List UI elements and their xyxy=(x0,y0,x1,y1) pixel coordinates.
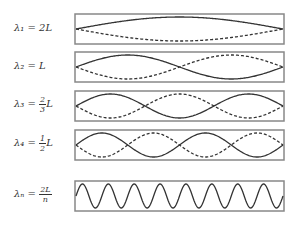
wave-panel-2 xyxy=(74,51,285,83)
label-prefix: λ₄ = xyxy=(14,137,39,148)
wave-panel-1 xyxy=(74,13,285,45)
mode-label-n: λₙ = 2Ln xyxy=(14,185,52,204)
label-suffix: L xyxy=(46,98,53,109)
label-value: 2L xyxy=(39,22,52,33)
fraction: 2Ln xyxy=(39,185,51,204)
label-prefix: λ₂ = xyxy=(14,60,39,71)
numerator: 2L xyxy=(39,185,51,195)
wave-panel-3 xyxy=(74,90,285,122)
wave-panel-5 xyxy=(74,180,285,212)
mode-label-2: λ₂ = L xyxy=(14,60,46,71)
label-value: L xyxy=(39,60,46,71)
mode-label-1: λ₁ = 2L xyxy=(14,22,52,33)
label-prefix: λ₃ = xyxy=(14,98,39,109)
wave-panel-4 xyxy=(74,129,285,161)
denominator: n xyxy=(39,195,51,204)
label-prefix: λₙ = xyxy=(14,188,39,199)
mode-label-4: λ₄ = 12L xyxy=(14,134,53,153)
mode-label-3: λ₃ = 23L xyxy=(14,95,53,114)
label-prefix: λ₁ = xyxy=(14,22,39,33)
label-suffix: L xyxy=(46,137,53,148)
